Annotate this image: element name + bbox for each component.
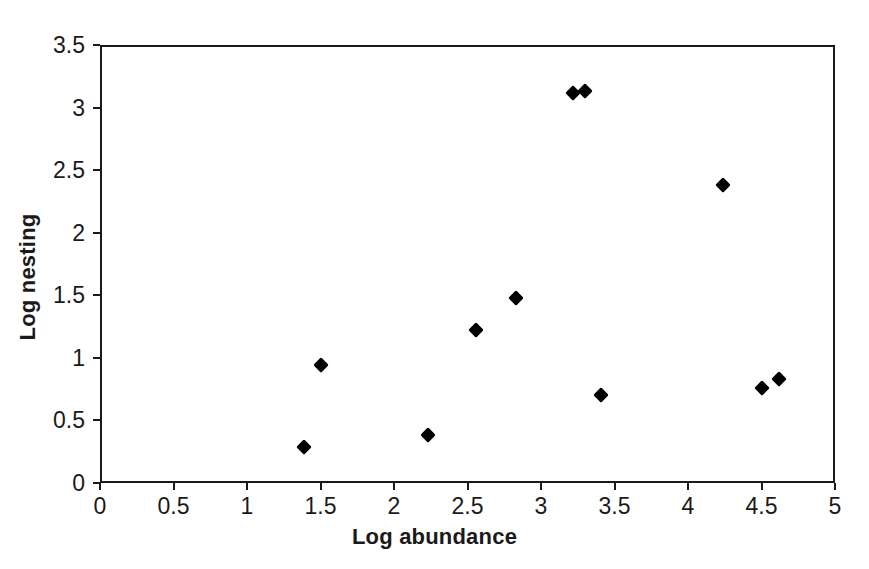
- scatter-chart: 00.511.522.533.544.55 00.511.522.533.5 L…: [0, 0, 869, 569]
- y-tick-mark: [93, 419, 100, 421]
- y-tick-label: 3.5: [0, 32, 85, 58]
- y-tick-mark: [93, 482, 100, 484]
- y-tick-label: 1: [0, 345, 85, 371]
- x-tick-label: 5: [790, 493, 869, 519]
- y-tick-label: 1.5: [0, 282, 85, 308]
- x-tick-mark: [393, 483, 395, 490]
- y-tick-mark: [93, 294, 100, 296]
- y-tick-label: 0.5: [0, 407, 85, 433]
- x-axis-title: Log abundance: [0, 524, 869, 550]
- x-tick-mark: [246, 483, 248, 490]
- y-tick-mark: [93, 107, 100, 109]
- y-tick-label: 0: [0, 470, 85, 496]
- y-tick-label: 3: [0, 95, 85, 121]
- x-tick-mark: [99, 483, 101, 490]
- y-tick-mark: [93, 232, 100, 234]
- y-axis-title: Log nesting: [15, 187, 41, 367]
- x-tick-mark: [467, 483, 469, 490]
- y-tick-label: 2.5: [0, 157, 85, 183]
- x-tick-mark: [320, 483, 322, 490]
- y-tick-mark: [93, 169, 100, 171]
- plot-area: [100, 45, 835, 483]
- x-tick-mark: [540, 483, 542, 490]
- x-tick-mark: [761, 483, 763, 490]
- y-tick-mark: [93, 44, 100, 46]
- y-tick-mark: [93, 357, 100, 359]
- x-tick-mark: [834, 483, 836, 490]
- x-tick-mark: [173, 483, 175, 490]
- y-tick-label: 2: [0, 220, 85, 246]
- x-tick-mark: [614, 483, 616, 490]
- x-tick-mark: [687, 483, 689, 490]
